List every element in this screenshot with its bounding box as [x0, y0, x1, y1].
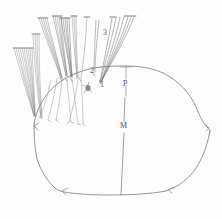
seta-bundle-point-2	[94, 20, 99, 72]
median-reference-line	[121, 98, 125, 195]
seta-tip-hooks	[48, 120, 85, 126]
figure-drawing	[0, 0, 222, 219]
seta-bundle-right	[100, 16, 136, 82]
label-bundle-2: 2	[90, 67, 94, 75]
label-posterior-marker: P	[123, 80, 127, 88]
label-bundle-3: 3	[103, 29, 107, 37]
caption-remnant-text	[140, 0, 222, 11]
seta-base-ticks	[60, 73, 101, 84]
label-bundle-1: 1	[100, 81, 104, 89]
label-median-marker: M	[120, 122, 127, 130]
internal-setae	[39, 78, 83, 124]
figure-container: 1 2 3 P M	[0, 0, 222, 219]
seta-bundle-left-outer	[13, 48, 35, 116]
seta-bundle-mid-right	[71, 16, 78, 78]
seta-bundle-mid-left	[38, 18, 62, 78]
pigment-spot	[82, 82, 92, 93]
